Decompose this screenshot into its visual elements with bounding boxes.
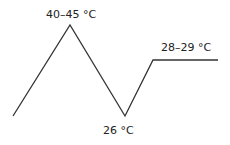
trough-temperature-label: 26 °C (103, 125, 134, 136)
peak-temperature-label: 40–45 °C (46, 9, 96, 20)
plateau-temperature-label: 28–29 °C (161, 42, 211, 53)
